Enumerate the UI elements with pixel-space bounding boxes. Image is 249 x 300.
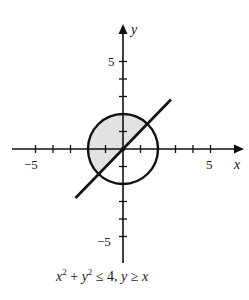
x-tick-label-neg5: −5: [24, 157, 38, 172]
region-diagram: −5 5 5 −5 x y x2 + y2 ≤ 4, y ≥ x: [0, 0, 249, 300]
caption: x2 + y2 ≤ 4, y ≥ x: [55, 267, 149, 284]
x-axis-arrow-icon: [234, 145, 244, 154]
x-tick-label-5: 5: [206, 157, 213, 172]
origin-point: [121, 147, 125, 151]
y-axis-label: y: [129, 22, 138, 37]
plot-svg: −5 5 5 −5 x y x2 + y2 ≤ 4, y ≥ x: [0, 0, 249, 300]
x-axis-label: x: [233, 157, 241, 172]
y-tick-label-neg5: −5: [97, 234, 111, 249]
y-tick-label-5: 5: [108, 54, 115, 69]
y-axis-arrow-icon: [119, 24, 128, 34]
